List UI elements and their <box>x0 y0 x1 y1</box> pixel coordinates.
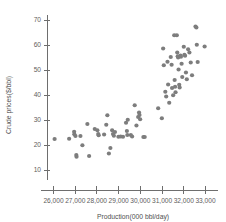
x-tick-label: 28,000 <box>87 197 108 204</box>
x-tick-label: 31,000 <box>152 197 173 204</box>
x-tick-label: 32,000 <box>174 197 195 204</box>
x-axis-title: Production(000 bbl/day) <box>97 213 169 221</box>
data-point <box>190 73 194 77</box>
data-point <box>80 143 84 147</box>
x-tick-label: 27,000 <box>65 197 86 204</box>
data-point <box>184 70 188 74</box>
y-axis-title: Crude prices($/bbl) <box>5 76 13 134</box>
data-point <box>173 85 177 89</box>
y-tick-label: 30 <box>34 116 42 123</box>
data-point <box>108 146 112 150</box>
data-point <box>178 85 182 89</box>
data-point <box>85 122 89 126</box>
y-tick-label: 60 <box>34 41 42 48</box>
data-points <box>53 24 207 158</box>
data-point <box>137 113 141 117</box>
y-tick-label: 70 <box>34 16 42 23</box>
data-point <box>112 134 116 138</box>
data-point <box>169 55 173 59</box>
y-axis: 10203040506070 <box>34 15 50 181</box>
data-point <box>78 134 82 138</box>
data-point <box>195 43 199 47</box>
data-point <box>107 151 111 155</box>
x-axis: 26,00027,00028,00029,00030,00031,00032,0… <box>41 186 218 204</box>
data-point <box>180 75 184 79</box>
data-point <box>196 60 200 64</box>
data-point <box>203 44 207 48</box>
data-point <box>175 33 179 37</box>
data-point <box>175 50 179 54</box>
y-tick-label: 50 <box>34 66 42 73</box>
data-point <box>125 129 129 133</box>
data-point <box>167 101 171 105</box>
data-point <box>74 155 78 159</box>
data-point <box>164 94 168 98</box>
data-point <box>162 63 166 67</box>
data-point <box>67 137 71 141</box>
data-point <box>165 60 169 64</box>
data-point <box>95 128 99 132</box>
scatter-chart: 10203040506070 26,00027,00028,00029,0003… <box>0 0 226 222</box>
data-point <box>73 134 77 138</box>
data-point <box>156 106 160 110</box>
data-point <box>161 46 165 50</box>
data-point <box>121 135 125 139</box>
y-tick-label: 40 <box>34 91 42 98</box>
data-point <box>126 118 130 122</box>
data-point <box>185 77 189 81</box>
data-point <box>104 123 108 127</box>
data-point <box>182 45 186 49</box>
data-point <box>187 50 191 54</box>
data-point <box>130 134 134 138</box>
data-point <box>105 113 109 117</box>
data-point <box>183 54 187 58</box>
data-point <box>138 117 142 121</box>
x-tick-label: 26,000 <box>43 197 64 204</box>
y-tick-label: 20 <box>34 141 42 148</box>
data-point <box>194 25 198 29</box>
data-point <box>163 90 167 94</box>
data-point <box>113 130 117 134</box>
data-point <box>143 135 147 139</box>
data-point <box>170 63 174 67</box>
y-tick-label: 10 <box>34 166 42 173</box>
x-tick-label: 29,000 <box>109 197 130 204</box>
data-point <box>180 62 184 66</box>
data-point <box>134 123 138 127</box>
data-point <box>97 133 101 137</box>
data-point <box>87 154 91 158</box>
data-point <box>173 78 177 82</box>
data-point <box>166 82 170 86</box>
data-point <box>189 60 193 64</box>
x-tick-label: 30,000 <box>130 197 151 204</box>
x-tick-label: 33,000 <box>195 197 216 204</box>
data-point <box>176 67 180 71</box>
chart-title-clipped <box>8 0 188 3</box>
data-point <box>102 132 106 136</box>
data-point <box>53 137 57 141</box>
data-point <box>173 90 177 94</box>
data-point <box>133 103 137 107</box>
data-point <box>160 116 164 120</box>
plot-area: 10203040506070 26,00027,00028,00029,0003… <box>0 0 226 222</box>
